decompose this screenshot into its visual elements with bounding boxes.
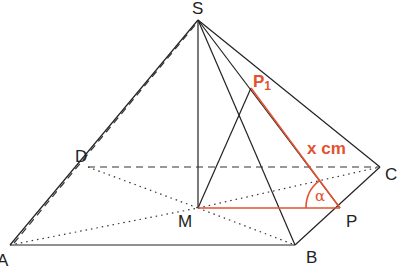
pyramid-diagram — [0, 0, 408, 273]
label-p: P — [346, 213, 357, 230]
edge-sa — [10, 20, 198, 245]
edge-bc — [295, 167, 380, 245]
label-p1-main: P — [253, 72, 264, 91]
edge-ad-hidden — [14, 24, 196, 243]
diagonal-dm — [88, 167, 198, 208]
diagonal-mb — [198, 208, 295, 245]
label-b: B — [306, 249, 317, 266]
angle-label: α — [315, 189, 325, 204]
label-m: M — [178, 213, 192, 230]
label-c: C — [385, 166, 397, 183]
label-s: S — [192, 0, 203, 17]
label-p1: P1 — [253, 73, 271, 92]
segment-mp1 — [198, 88, 251, 208]
label-p1-sub: 1 — [264, 79, 271, 93]
label-d: D — [75, 148, 87, 165]
length-label: x cm — [307, 140, 346, 157]
label-a: A — [0, 252, 8, 269]
diagonal-mc — [198, 167, 380, 208]
edge-sb — [198, 20, 295, 245]
